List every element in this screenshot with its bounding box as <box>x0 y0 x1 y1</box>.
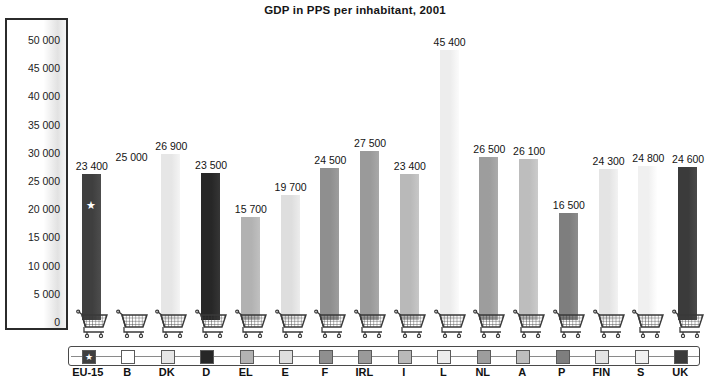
legend-label-uk: UK <box>672 366 688 378</box>
bar-group[interactable]: 24 600 <box>669 18 707 330</box>
chart-title: GDP in PPS per inhabitant, 2001 <box>0 4 710 16</box>
shopping-cart-icon <box>113 308 151 338</box>
bar-group[interactable]: ★23 400 <box>73 18 111 330</box>
bar-p[interactable] <box>559 213 578 320</box>
bar-value-label: 26 100 <box>513 145 545 157</box>
bar-e[interactable] <box>281 195 300 320</box>
legend-swatch-irl[interactable] <box>358 350 372 364</box>
y-axis-tick: 10 000 <box>28 260 60 272</box>
shopping-cart-icon <box>629 308 667 338</box>
y-axis-tick: 5 000 <box>34 288 60 300</box>
bar-group[interactable]: 27 500 <box>351 18 389 330</box>
bar-s[interactable] <box>638 166 657 320</box>
y-axis-tick: 50 000 <box>28 34 60 46</box>
bar-b[interactable] <box>122 165 141 320</box>
bar-group[interactable]: 24 800 <box>629 18 667 330</box>
legend-label-e: E <box>282 366 289 378</box>
bar-group[interactable]: 16 500 <box>550 18 588 330</box>
legend-swatch-el[interactable] <box>240 350 254 364</box>
bar-value-label: 24 300 <box>593 155 625 167</box>
legend-swatch-l[interactable] <box>437 350 451 364</box>
bar-group[interactable]: 23 500 <box>192 18 230 330</box>
bar-group[interactable]: 23 400 <box>391 18 429 330</box>
bar-group[interactable]: 26 900 <box>152 18 190 330</box>
legend-swatch-p[interactable] <box>556 350 570 364</box>
bar-value-label: 25 000 <box>116 151 148 163</box>
legend-swatch-i[interactable] <box>398 350 412 364</box>
bar-i[interactable] <box>400 174 419 320</box>
shopping-cart-icon <box>669 308 707 338</box>
bar-group[interactable]: 45 400 <box>431 18 469 330</box>
shopping-cart-icon <box>311 308 349 338</box>
legend-swatch-f[interactable] <box>319 350 333 364</box>
legend-label-irl: IRL <box>355 366 373 378</box>
bar-group[interactable]: 24 300 <box>590 18 628 330</box>
bar-value-label: 26 500 <box>473 143 505 155</box>
shopping-cart-icon <box>272 308 310 338</box>
bar-el[interactable] <box>241 217 260 320</box>
bar-value-label: 23 400 <box>394 160 426 172</box>
legend-swatch-b[interactable] <box>121 350 135 364</box>
bar-uk[interactable] <box>678 167 697 320</box>
bar-value-label: 23 400 <box>76 160 108 172</box>
eu-star-icon: ★ <box>85 353 93 362</box>
y-axis-tick: 20 000 <box>28 203 60 215</box>
shopping-cart-icon <box>391 308 429 338</box>
legend-swatch-dk[interactable] <box>161 350 175 364</box>
bar-l[interactable] <box>440 50 459 320</box>
bar-group[interactable]: 25 000 <box>113 18 151 330</box>
shopping-cart-icon <box>351 308 389 338</box>
bar-fin[interactable] <box>599 169 618 320</box>
y-axis-tick: 0 <box>54 316 60 328</box>
y-axis-tick: 35 000 <box>28 119 60 131</box>
legend-label-b: B <box>123 366 131 378</box>
legend-label-dk: DK <box>159 366 175 378</box>
legend-label-i: I <box>402 366 405 378</box>
bar-value-label: 26 900 <box>155 140 187 152</box>
legend-swatch-uk[interactable] <box>674 350 688 364</box>
legend-swatch-fin[interactable] <box>595 350 609 364</box>
legend-label-f: F <box>321 366 328 378</box>
bar-group[interactable]: 26 100 <box>510 18 548 330</box>
shopping-cart-icon <box>431 308 469 338</box>
legend-swatch-eu-15[interactable]: ★ <box>82 350 96 364</box>
legend-swatch-a[interactable] <box>516 350 530 364</box>
bar-d[interactable] <box>201 173 220 320</box>
legend-swatch-s[interactable] <box>635 350 649 364</box>
eu-star-icon: ★ <box>86 200 96 211</box>
bar-dk[interactable] <box>161 154 180 320</box>
shopping-cart-icon <box>590 308 628 338</box>
bar-a[interactable] <box>519 159 538 320</box>
legend-label-d: D <box>202 366 210 378</box>
y-axis-tick: 45 000 <box>28 62 60 74</box>
bar-group[interactable]: 24 500 <box>311 18 349 330</box>
bar-eu-15[interactable]: ★ <box>82 174 101 320</box>
bar-value-label: 23 500 <box>195 159 227 171</box>
legend-label-eu-15: EU-15 <box>72 366 103 378</box>
bar-group[interactable]: 15 700 <box>232 18 270 330</box>
bar-group[interactable]: 26 500 <box>470 18 508 330</box>
legend-label-s: S <box>637 366 644 378</box>
y-axis-tick: 30 000 <box>28 147 60 159</box>
bar-value-label: 15 700 <box>235 203 267 215</box>
legend-swatch-e[interactable] <box>279 350 293 364</box>
bar-value-label: 45 400 <box>434 36 466 48</box>
bar-irl[interactable] <box>360 151 379 320</box>
shopping-cart-icon <box>152 308 190 338</box>
bar-value-label: 27 500 <box>354 137 386 149</box>
bar-f[interactable] <box>320 168 339 320</box>
bar-group[interactable]: 19 700 <box>272 18 310 330</box>
legend-swatch-d[interactable] <box>200 350 214 364</box>
legend-label-l: L <box>440 366 447 378</box>
legend-label-a: A <box>518 366 526 378</box>
bar-value-label: 19 700 <box>275 181 307 193</box>
shopping-cart-icon <box>510 308 548 338</box>
bar-value-label: 24 600 <box>672 153 704 165</box>
legend-swatch-nl[interactable] <box>477 350 491 364</box>
bar-nl[interactable] <box>479 157 498 320</box>
shopping-cart-icon <box>232 308 270 338</box>
legend-label-nl: NL <box>475 366 490 378</box>
legend-label-fin: FIN <box>592 366 610 378</box>
shopping-cart-icon <box>550 308 588 338</box>
bar-value-label: 24 500 <box>314 154 346 166</box>
